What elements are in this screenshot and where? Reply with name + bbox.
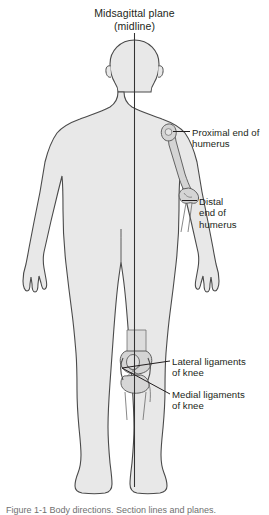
torso-and-limbs-outline (23, 92, 219, 494)
label-proximal-humerus-line-1: Proximal end of (192, 127, 259, 138)
label-medial-ligaments-line-2: of knee (172, 400, 245, 411)
humeral-head-detail (165, 129, 172, 136)
label-proximal-humerus: Proximal end of humerus (192, 127, 259, 150)
label-distal-humerus-line-2: end of (199, 207, 237, 218)
body-silhouette (23, 40, 219, 494)
figure-caption: Figure 1-1 Body directions. Section line… (6, 505, 264, 515)
tibia-head (121, 375, 149, 393)
label-lateral-ligaments-line-2: of knee (172, 367, 246, 378)
femur-distal-shaft (127, 330, 146, 352)
title-line-1: Midsagittal plane (0, 7, 269, 20)
title-line-2: (midline) (0, 20, 269, 33)
body-diagram-svg (0, 0, 269, 515)
label-lateral-ligaments-line-1: Lateral ligaments (172, 356, 246, 367)
anatomical-figure: Midsagittal plane (midline) Proximal end… (0, 0, 269, 515)
ear-left-icon (106, 66, 111, 77)
label-distal-humerus-line-3: humerus (199, 219, 237, 230)
label-distal-humerus-line-1: Distal (199, 196, 237, 207)
label-medial-ligaments-line-1: Medial ligaments (172, 389, 245, 400)
label-lateral-ligaments: Lateral ligaments of knee (172, 356, 246, 379)
label-proximal-humerus-line-2: humerus (192, 138, 259, 149)
label-distal-humerus: Distal end of humerus (199, 196, 237, 230)
ear-right-icon (158, 66, 163, 77)
label-medial-ligaments: Medial ligaments of knee (172, 389, 245, 412)
figure-title: Midsagittal plane (midline) (0, 7, 269, 33)
